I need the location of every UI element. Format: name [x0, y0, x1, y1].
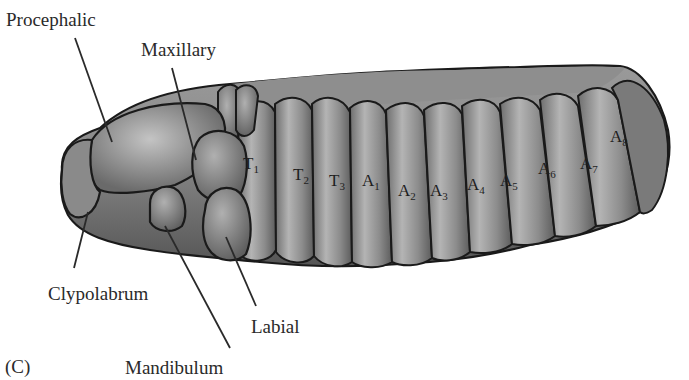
segment-letter: T [243, 154, 253, 173]
label-clypolabrum: Clypolabrum [48, 284, 148, 303]
segment-letter: T [329, 171, 339, 190]
segment-number: 3 [442, 190, 448, 202]
mandibulum-lobe [150, 187, 185, 231]
segment-letter: A [538, 159, 550, 178]
segment-label-a4: A4 [467, 176, 485, 196]
leader-procephalic [75, 38, 112, 142]
segment-number: 1 [374, 180, 380, 192]
segment-letter: A [500, 171, 512, 190]
embryo-figure: Procephalic Maxillary Clypolabrum Labial… [0, 0, 689, 380]
label-maxillary: Maxillary [141, 40, 216, 59]
segment-label-t1: T1 [243, 155, 259, 175]
segment-label-a7: A7 [580, 155, 598, 175]
segment-letter: A [467, 175, 479, 194]
segment-letter: A [610, 127, 622, 146]
label-procephalic: Procephalic [6, 10, 96, 29]
segment-number: 8 [622, 136, 628, 148]
segment-label-a2: A2 [398, 182, 416, 202]
segment-number: 3 [339, 180, 345, 192]
segment-label-a6: A6 [538, 160, 556, 180]
segment-number: 2 [410, 190, 416, 202]
segment-letter: A [430, 181, 442, 200]
segment-label-t3: T3 [329, 172, 345, 192]
segment-number: 6 [550, 168, 556, 180]
segment-number: 1 [253, 163, 259, 175]
segment-label-t2: T2 [293, 166, 309, 186]
segment-letter: A [398, 181, 410, 200]
label-labial: Labial [251, 317, 300, 336]
segment-number: 5 [512, 180, 518, 192]
segment-letter: T [293, 165, 303, 184]
segment-number: 4 [479, 184, 485, 196]
segment-letter: A [580, 154, 592, 173]
segment-number: 2 [303, 174, 309, 186]
segment-label-a5: A5 [500, 172, 518, 192]
segment-number: 7 [592, 163, 598, 175]
label-mandibulum: Mandibulum [125, 358, 223, 377]
segment-letter: A [362, 171, 374, 190]
segment-label-a3: A3 [430, 182, 448, 202]
segment-label-a8: A8 [610, 128, 628, 148]
segment-label-a1: A1 [362, 172, 380, 192]
panel-label: (C) [5, 357, 30, 376]
labial-lobe [203, 188, 251, 260]
